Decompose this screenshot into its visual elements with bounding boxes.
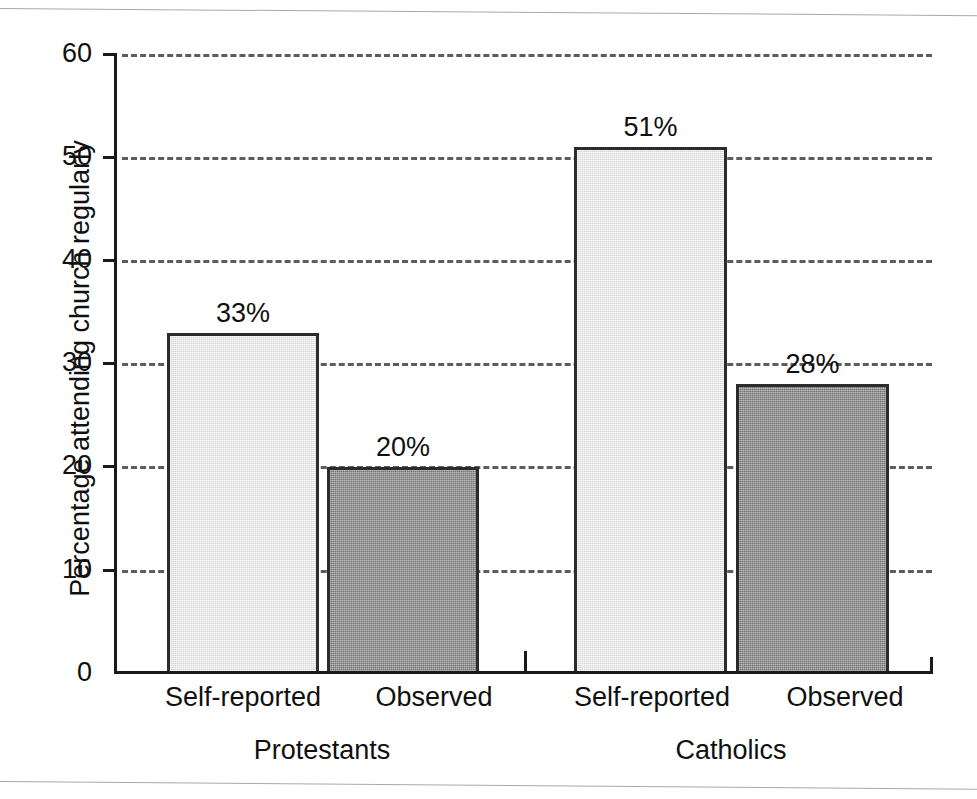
gridline-50: [122, 157, 932, 160]
gridline-40: [122, 260, 932, 263]
y-axis-line: [114, 53, 117, 674]
group-label-protestants: Protestants: [208, 737, 436, 764]
bar-protestants-self-reported[interactable]: [167, 333, 319, 674]
x-axis-group-separator-tick: [524, 651, 527, 673]
bar-protestants-observed[interactable]: [327, 467, 479, 674]
bar-value-protestants-observed: 20%: [327, 434, 479, 461]
gridline-60: [122, 54, 932, 57]
y-tick-label-60: 60: [0, 40, 92, 67]
y-tick-label-0: 0: [0, 659, 92, 686]
chart-page: Percentage attending church regularly 60…: [0, 0, 977, 799]
x-label-protestants-observed: Observed: [320, 684, 548, 711]
y-tick-label-20: 20: [0, 452, 92, 479]
x-label-catholics-observed: Observed: [731, 684, 959, 711]
y-tick-label-40: 40: [0, 246, 92, 273]
bar-value-catholics-self-reported: 51%: [574, 114, 727, 141]
group-label-catholics: Catholics: [617, 737, 845, 764]
y-tick-label-10: 10: [0, 556, 92, 583]
y-tick-label-30: 30: [0, 349, 92, 376]
x-axis-end-tick: [930, 657, 933, 673]
bar-value-catholics-observed: 28%: [736, 351, 889, 378]
bar-value-protestants-self-reported: 33%: [167, 300, 319, 327]
bar-catholics-self-reported[interactable]: [574, 147, 727, 674]
bar-catholics-observed[interactable]: [736, 384, 889, 674]
y-tick-label-50: 50: [0, 143, 92, 170]
bar-chart: Percentage attending church regularly 60…: [0, 0, 977, 799]
